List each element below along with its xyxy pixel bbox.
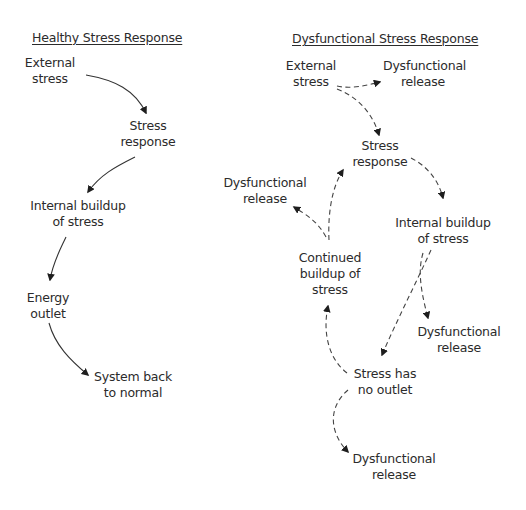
healthy-node-energy-outlet: Energy outlet	[25, 290, 71, 322]
arrow-external-to-response	[86, 75, 146, 113]
healthy-title: Healthy Stress Response	[32, 30, 182, 45]
dysfunctional-node-release-3: Dysfunctional release	[417, 324, 501, 356]
healthy-node-external-stress: External stress	[24, 55, 76, 87]
dysfunctional-node-release-2: Dysfunctional release	[223, 175, 307, 207]
arrow-continued-to-release	[294, 207, 326, 237]
arrow-energy-to-system	[49, 323, 88, 375]
healthy-node-internal-buildup: Internal buildup of stress	[26, 198, 130, 230]
dysfunctional-node-internal-buildup: Internal buildup of stress	[393, 215, 493, 247]
dysfunctional-node-release-4: Dysfunctional release	[352, 451, 436, 483]
dysfunctional-title: Dysfunctional Stress Response	[292, 31, 478, 46]
dysfunctional-node-release-1: Dysfunctional release	[383, 58, 463, 90]
arrow-external-to-release	[337, 82, 380, 87]
dysfunctional-node-stress-response: Stress response	[350, 138, 410, 170]
dysfunctional-node-no-outlet: Stress has no outlet	[352, 366, 418, 398]
arrow-no-outlet-to-continued	[326, 306, 347, 373]
arrow-internal-to-energy	[50, 237, 66, 280]
arrow-external-to-response	[337, 89, 379, 135]
arrow-continued-to-response	[329, 170, 343, 240]
arrow-response-to-internal	[88, 157, 135, 192]
dysfunctional-node-continued-buildup: Continued buildup of stress	[296, 250, 364, 298]
arrow-no-outlet-to-release	[333, 390, 348, 452]
healthy-node-system-back: System back to normal	[93, 369, 173, 401]
healthy-node-stress-response: Stress response	[118, 118, 178, 150]
arrow-internal-to-release	[420, 253, 428, 318]
dysfunctional-node-external-stress: External stress	[284, 58, 338, 90]
arrow-response-to-internal	[411, 158, 443, 198]
